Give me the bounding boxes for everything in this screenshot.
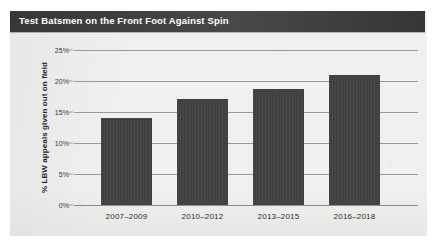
y-tick-mark (69, 112, 73, 113)
bar (329, 75, 380, 205)
x-axis-label: 2007–2009 (87, 212, 167, 221)
y-tick-mark (69, 50, 73, 51)
y-tick-label: 20% (55, 78, 69, 85)
x-axis-label: 2010–2012 (163, 212, 243, 221)
x-axis-label: 2013–2015 (239, 212, 319, 221)
chart-title: Test Batsmen on the Front Foot Against S… (19, 15, 229, 26)
bar (101, 118, 152, 205)
scanned-page: Test Batsmen on the Front Foot Against S… (0, 0, 444, 246)
bar (253, 89, 304, 205)
chart-title-bar: Test Batsmen on the Front Foot Against S… (10, 11, 425, 32)
y-tick-mark (69, 205, 73, 206)
y-tick-label: 0% (59, 202, 69, 209)
y-tick-label: 5% (59, 171, 69, 178)
y-tick-label: 10% (55, 140, 69, 147)
y-tick-mark (69, 174, 73, 175)
y-tick-mark (69, 143, 73, 144)
y-tick-mark (69, 81, 73, 82)
y-tick-label: 15% (55, 109, 69, 116)
bar (177, 99, 228, 205)
y-tick-label: 25% (55, 47, 69, 54)
gridline-25pct (74, 50, 418, 51)
plot-area: 0%5%10%15%20%25% 2007–20092010–20122013–… (74, 50, 418, 205)
y-axis-title: % LBW appeals given out on field (38, 50, 52, 205)
x-axis-label: 2016–2018 (315, 212, 395, 221)
